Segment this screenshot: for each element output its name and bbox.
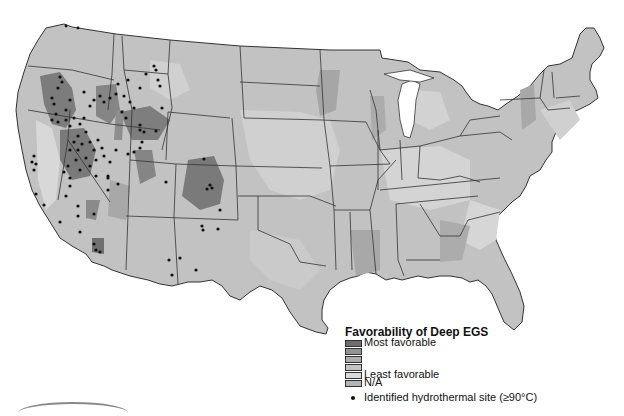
legend-label: N/A	[364, 377, 382, 388]
legend-swatch-4	[345, 364, 362, 371]
legend-label: Most favorable	[364, 337, 436, 348]
legend-swatch-least-favorable	[345, 372, 362, 379]
legend-swatch-2	[345, 348, 362, 355]
map-legend: Favorability of Deep EGS Most favorable …	[345, 326, 585, 403]
legend-class-2	[345, 348, 585, 356]
legend-point-label: Identified hydrothermal site (≥90°C)	[364, 391, 537, 403]
legend-swatch-na	[345, 380, 362, 387]
legend-class-na: N/A	[345, 380, 585, 388]
legend-point-entry: Identified hydrothermal site (≥90°C)	[345, 392, 585, 403]
legend-swatch-most-favorable	[345, 340, 362, 347]
site-dot-icon	[351, 396, 355, 400]
legend-class-1: Most favorable	[345, 340, 585, 348]
legend-class-3	[345, 356, 585, 364]
legend-swatch-3	[345, 356, 362, 363]
